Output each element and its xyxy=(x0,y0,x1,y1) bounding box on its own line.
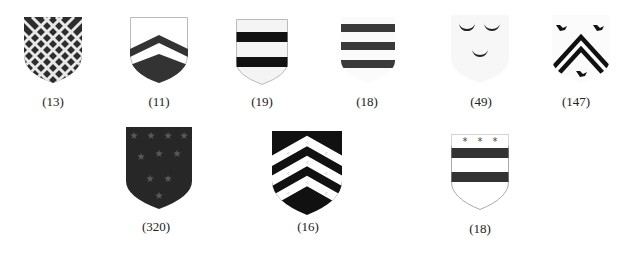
svg-text:★: ★ xyxy=(155,190,164,201)
svg-text:⁖: ⁖ xyxy=(305,139,309,146)
shield-two-bars xyxy=(236,19,288,85)
svg-text:★: ★ xyxy=(164,173,173,184)
svg-text:*: * xyxy=(478,136,483,147)
svg-text:★: ★ xyxy=(164,130,173,141)
shield-label: (16) xyxy=(278,219,338,235)
svg-text:★: ★ xyxy=(147,130,156,141)
shield-label: (11) xyxy=(129,94,189,110)
shield-three-bars xyxy=(341,17,395,83)
svg-text:★: ★ xyxy=(173,148,182,159)
svg-text:⁖: ⁖ xyxy=(286,150,290,157)
svg-text:⁖: ⁖ xyxy=(305,159,309,166)
shield-bars-mullets: *** xyxy=(451,134,509,210)
svg-text:⁖: ⁖ xyxy=(286,170,290,177)
shield-label: (13) xyxy=(23,94,83,110)
shield-chevron xyxy=(130,17,188,83)
svg-text:⁖: ⁖ xyxy=(324,170,328,177)
shield-fretty xyxy=(24,17,82,83)
svg-text:★: ★ xyxy=(155,148,164,159)
svg-text:★: ★ xyxy=(137,151,146,162)
shield-chevronels-birds xyxy=(552,15,610,83)
shield-label: (49) xyxy=(451,94,511,110)
svg-text:*: * xyxy=(493,136,498,147)
shield-stars: ★★★★ ★★★ ★★ ★ xyxy=(126,127,192,209)
shield-chevronels-ermine: ⁖⁖⁖ ⁖⁖⁖ ⁖⁖⁖ xyxy=(272,131,342,215)
shield-label: (147) xyxy=(546,94,606,110)
svg-text:*: * xyxy=(463,136,468,147)
svg-text:★: ★ xyxy=(146,173,155,184)
shield-three-crescents xyxy=(451,15,509,83)
svg-text:⁖: ⁖ xyxy=(305,179,309,186)
svg-text:★: ★ xyxy=(180,130,189,141)
shield-label: (320) xyxy=(126,219,186,235)
shield-label: (19) xyxy=(232,94,292,110)
svg-text:⁖: ⁖ xyxy=(324,150,328,157)
shield-label: (18) xyxy=(450,221,510,237)
shield-label: (18) xyxy=(337,94,397,110)
svg-text:⁖: ⁖ xyxy=(324,190,328,197)
svg-text:★: ★ xyxy=(130,130,139,141)
svg-text:⁖: ⁖ xyxy=(286,190,290,197)
